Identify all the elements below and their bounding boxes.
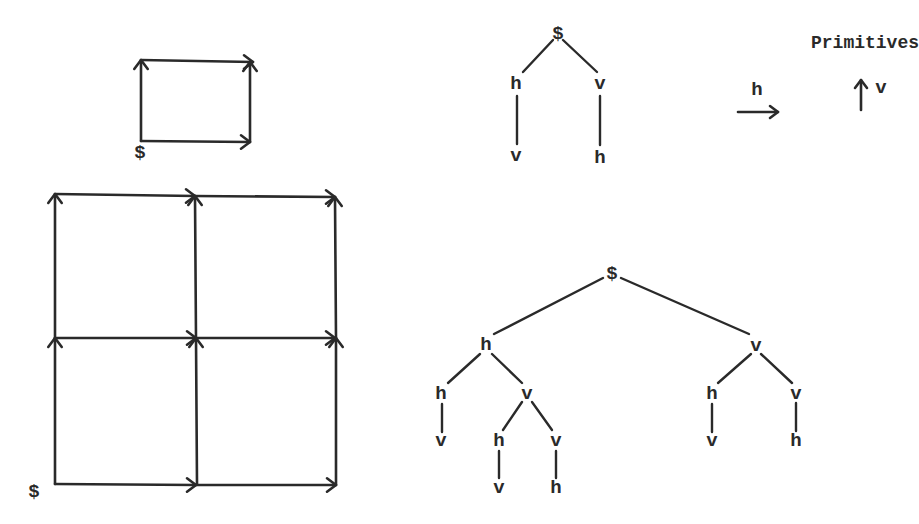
primitive-v-label: v [875,77,887,99]
tree-node-vhv: v [706,430,718,452]
right-arrow-icon [738,106,778,118]
primitives-legend: Primitives h v [738,33,919,118]
grid-edge [335,197,336,338]
tree-node-hhv: v [435,430,447,452]
tree-node-hv: v [521,383,533,405]
diagram-canvas: $ $ $hvvh $hvhvvhvvhhvvh Primitives h v [0,0,919,524]
tree-node-vh: h [706,383,717,405]
tree-node-root: $ [552,23,563,45]
tree-node-hvhv: v [493,477,505,499]
tree-edge [448,354,480,383]
tree-edge [494,278,603,334]
grid-edge [196,338,197,484]
grid-edge [55,194,195,196]
tree-edge [532,402,552,430]
small-tree-diagram: $hvvh [510,23,606,169]
tree-edge [621,278,749,334]
tree-node-h: h [480,334,491,356]
big-grid-start-label: $ [28,481,39,503]
tree-node-hh: h [435,383,446,405]
tree-node-root: $ [606,263,617,285]
grid-edge [195,196,335,197]
tree-node-v2: v [510,145,522,167]
tree-node-hvvh: h [550,477,561,499]
primitives-title: Primitives [811,33,919,53]
tree-edge [492,354,522,383]
grid-edge [141,60,253,62]
tree-node-vv: v [790,383,802,405]
big-tree-diagram: $hvhvvhvvhhvvh [435,263,802,499]
tree-node-v: v [750,335,762,357]
primitive-h-label: h [751,79,762,101]
grid-edge [55,484,196,485]
big-grid-diagram [48,189,343,492]
small-grid-diagram [134,55,257,149]
tree-node-v1: v [594,73,606,95]
tree-node-vvh: h [790,430,801,452]
small-grid-start-label: $ [134,142,145,164]
tree-node-h1: h [510,73,521,95]
tree-edge [503,402,522,430]
tree-edge [563,40,597,72]
tree-node-h2: h [594,147,605,169]
tree-edge [761,354,792,383]
up-arrow-icon [855,80,867,110]
grid-edge [141,141,250,142]
tree-node-hvv: v [550,430,562,452]
tree-node-hvh: h [493,430,504,452]
tree-edge [523,40,553,72]
grid-edge [195,196,196,338]
tree-edge [718,354,751,383]
